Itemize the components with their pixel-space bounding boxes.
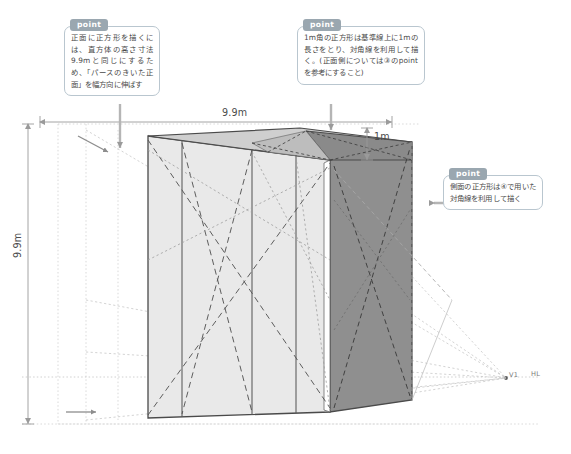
vanishing-point-label: V1 <box>509 371 518 379</box>
stretch-arrows <box>66 136 108 412</box>
dimension-height-label: 9.9m <box>12 233 23 258</box>
dimension-width-label: 9.9m <box>222 107 247 118</box>
callout-top-square[interactable]: point 1m角の正方形は基準線上に1mの長さをとり、対角線を利用して描く。(… <box>297 26 425 85</box>
callout-text: 1m角の正方形は基準線上に1mの長さをとり、対角線を利用して描く。(正面側につい… <box>304 32 418 79</box>
diagram-canvas: point 正面に正方形を描くには、直方体の高さ寸法9.9mと同じにするため、「… <box>0 0 571 454</box>
callout-front-face[interactable]: point 正面に正方形を描くには、直方体の高さ寸法9.9mと同じにするため、「… <box>64 26 160 96</box>
callout-badge: point <box>70 19 108 31</box>
callout-badge: point <box>303 19 341 31</box>
dim-height <box>22 124 34 424</box>
dim-depth <box>361 128 373 160</box>
callout-text: 側面の正方形は④で用いた対角線を利用して描く <box>450 181 536 204</box>
callout-badge: point <box>449 168 487 180</box>
dim-width <box>40 116 392 128</box>
horizon-line-label: HL <box>531 370 540 378</box>
callout-leaders <box>120 104 470 203</box>
callout-side-square[interactable]: point 側面の正方形は④で用いた対角線を利用して描く <box>443 175 543 210</box>
dimension-depth-label: 1m <box>374 131 390 142</box>
callout-text: 正面に正方形を描くには、直方体の高さ寸法9.9mと同じにするため、「パースのきい… <box>71 32 153 90</box>
